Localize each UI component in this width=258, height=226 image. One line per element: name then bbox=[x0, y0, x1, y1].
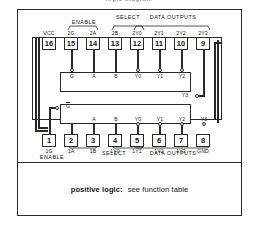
port-bot-b: B bbox=[106, 116, 126, 122]
port-bot-y0: Y0 bbox=[128, 116, 148, 122]
pin-4[interactable]: 4 bbox=[108, 134, 122, 147]
bubble-bot-y1 bbox=[158, 122, 162, 126]
bottom-group-label-select: SELECT bbox=[92, 150, 136, 156]
page-title-strip: logic diagram bbox=[0, 0, 258, 9]
pin-1[interactable]: 1 bbox=[42, 134, 56, 147]
top-group-label-enable: ENABLE bbox=[62, 19, 106, 25]
pin-14[interactable]: 14 bbox=[86, 37, 100, 50]
port-bot-y3: Y3 bbox=[194, 116, 214, 122]
pin-6[interactable]: 6 bbox=[152, 134, 166, 147]
bubble-top-y0 bbox=[136, 68, 140, 72]
page-title: logic diagram bbox=[106, 0, 153, 2]
bubble-top-y3 bbox=[195, 94, 199, 98]
pin-3[interactable]: 3 bbox=[86, 134, 100, 147]
pin-16[interactable]: 16 bbox=[42, 37, 56, 50]
pin-13[interactable]: 13 bbox=[108, 37, 122, 50]
port-top-a: A bbox=[84, 73, 104, 79]
pin-9[interactable]: 9 bbox=[196, 37, 210, 50]
port-bot-a: A bbox=[84, 116, 104, 122]
pin-10[interactable]: 10 bbox=[174, 37, 188, 50]
pin-12[interactable]: 12 bbox=[130, 37, 144, 50]
bubble-top-y1 bbox=[158, 68, 162, 72]
bubble-top-y2 bbox=[180, 68, 184, 72]
bubble-bot-g bbox=[55, 106, 59, 110]
bottom-group-label-data-outputs: DATA OUTPUTS bbox=[136, 150, 210, 156]
port-top-y0: Y0 bbox=[128, 73, 148, 79]
port-bot-g: G bbox=[61, 103, 75, 109]
port-bot-y1: Y1 bbox=[150, 116, 170, 122]
bubble-bot-y2 bbox=[180, 122, 184, 126]
pin-2[interactable]: 2 bbox=[64, 134, 78, 147]
pin-15[interactable]: 15 bbox=[64, 37, 78, 50]
pin-11[interactable]: 11 bbox=[152, 37, 166, 50]
bubble-bot-y0 bbox=[136, 122, 140, 126]
port-top-b: B bbox=[106, 73, 126, 79]
caption-rest: see function table bbox=[128, 185, 189, 194]
figure-frame: ENABLE SELECT DATA OUTPUTS VCC 2G 2A 2B … bbox=[17, 9, 242, 216]
bubble-top-g bbox=[70, 68, 74, 72]
top-group-label-data-outputs: DATA OUTPUTS bbox=[136, 14, 210, 20]
pin-5[interactable]: 5 bbox=[130, 134, 144, 147]
port-top-y1: Y1 bbox=[150, 73, 170, 79]
port-top-y2: Y2 bbox=[172, 73, 192, 79]
pin-name-2y3: 2Y3 bbox=[190, 30, 216, 36]
port-top-g: G bbox=[62, 73, 82, 79]
port-bot-y2: Y2 bbox=[172, 116, 192, 122]
logic-diagram: ENABLE SELECT DATA OUTPUTS VCC 2G 2A 2B … bbox=[18, 10, 241, 162]
caption-bar: positive logic:see function table bbox=[18, 162, 241, 216]
bottom-group-label-enable: ENABLE bbox=[30, 154, 74, 160]
bubble-bot-y3 bbox=[202, 122, 206, 126]
port-top-y3: Y3 bbox=[175, 92, 195, 98]
pin-8[interactable]: 8 bbox=[196, 134, 210, 147]
pin-7[interactable]: 7 bbox=[174, 134, 188, 147]
caption-bold: positive logic: bbox=[71, 185, 123, 194]
